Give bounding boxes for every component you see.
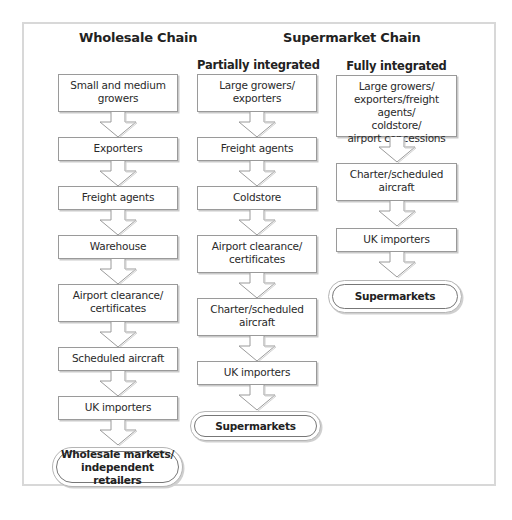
down-arrow-icon (235, 161, 279, 187)
partial-step-airport-clearance: Airport clearance/ certificates (197, 235, 317, 273)
partial-end-supermarkets: Supermarkets (190, 411, 321, 441)
wholesale-step-warehouse: Warehouse (58, 235, 178, 259)
down-arrow-icon (96, 420, 140, 446)
down-arrow-icon (96, 322, 140, 348)
down-arrow-icon (235, 210, 279, 236)
partially-integrated-title: Partially integrated (197, 58, 317, 72)
wholesale-step-growers: Small and medium growers (58, 74, 178, 112)
wholesale-end-markets: Wholesale markets/ independent retailers (52, 447, 183, 487)
wholesale-step-uk-importers: UK importers (58, 396, 178, 420)
wholesale-step-scheduled-aircraft: Scheduled aircraft (58, 347, 178, 371)
fully-integrated-title: Fully integrated (336, 59, 457, 73)
full-step-charter-aircraft: Charter/scheduled aircraft (336, 163, 457, 201)
down-arrow-icon (235, 273, 279, 299)
down-arrow-icon (235, 336, 279, 362)
full-step-integrated-operator: Large growers/ exporters/freight agents/… (336, 75, 457, 137)
full-step-uk-importers: UK importers (336, 228, 457, 252)
down-arrow-icon (96, 112, 140, 138)
wholesale-step-exporters: Exporters (58, 137, 178, 161)
down-arrow-icon (96, 161, 140, 187)
down-arrow-icon (375, 252, 419, 278)
down-arrow-icon (375, 137, 419, 163)
partial-step-coldstore: Coldstore (197, 186, 317, 210)
supermarket-chain-title: Supermarket Chain (283, 30, 421, 45)
wholesale-step-freight-agents: Freight agents (58, 186, 178, 210)
down-arrow-icon (96, 210, 140, 236)
wholesale-step-airport-clearance: Airport clearance/ certificates (58, 284, 178, 322)
down-arrow-icon (235, 385, 279, 411)
down-arrow-icon (96, 259, 140, 285)
partial-step-charter-aircraft: Charter/scheduled aircraft (197, 298, 317, 336)
down-arrow-icon (235, 112, 279, 138)
full-end-supermarkets: Supermarkets (328, 280, 462, 313)
wholesale-chain-title: Wholesale Chain (79, 30, 197, 45)
down-arrow-icon (375, 201, 419, 227)
down-arrow-icon (96, 371, 140, 397)
partial-step-large-growers: Large growers/ exporters (197, 74, 317, 112)
partial-end-label: Supermarkets (194, 415, 317, 437)
wholesale-end-label: Wholesale markets/ independent retailers (56, 451, 179, 483)
partial-step-freight-agents: Freight agents (197, 137, 317, 161)
partial-step-uk-importers: UK importers (197, 361, 317, 385)
full-end-label: Supermarkets (332, 284, 458, 309)
